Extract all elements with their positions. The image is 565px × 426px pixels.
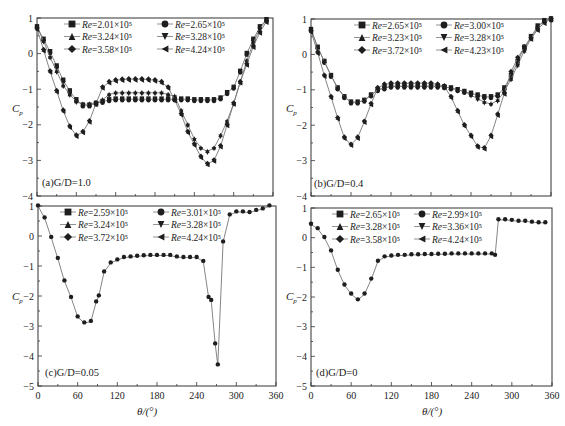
circle-marker-icon [419, 211, 426, 218]
legend-label: Re=3.58×10⁵ [81, 45, 132, 55]
data-point [155, 253, 159, 257]
data-point [186, 98, 190, 102]
plot-frame [37, 18, 273, 196]
legend-label: Re=3.28×10⁵ [174, 32, 225, 42]
legend-item: Re=4.24×10⁵ [157, 45, 225, 55]
data-point [107, 99, 111, 103]
series-line [311, 19, 551, 104]
data-point [403, 253, 407, 257]
data-point [315, 226, 319, 230]
x-tick-label: 0 [309, 390, 314, 401]
panel-label: (c)G/D=0.05 [45, 367, 99, 379]
legend-label: Re=3.36×10⁵ [431, 222, 482, 232]
circle-marker-icon [441, 22, 448, 29]
y-tick-label: −3 [296, 321, 307, 332]
data-point [153, 98, 157, 102]
legend-label: Re=3.28×10⁵ [349, 222, 400, 232]
x-tick-label: 240 [189, 390, 204, 401]
data-point [416, 252, 420, 256]
x-axis-ticks: 060120180240300360 [309, 382, 560, 401]
x-tick-label: 0 [36, 390, 41, 401]
data-point [536, 220, 540, 224]
x-tick-label: 240 [464, 390, 479, 401]
data-point [148, 253, 152, 257]
y-tick-label: −1 [23, 261, 34, 272]
data-point [209, 298, 213, 302]
x-axis-ticks: 060120180240300360 [36, 382, 284, 401]
data-point [456, 251, 460, 255]
data-point [483, 251, 487, 255]
y-tick-label: 1 [302, 14, 307, 25]
data-point [396, 253, 400, 257]
legend-item: Re=2.59×10⁵ [60, 208, 128, 218]
panel-label: (d)G/D=0 [316, 367, 358, 379]
plot-frame [38, 206, 276, 386]
figure-canvas: 10−1−2−3−4 Cp (a)G/D=1.0 Re=2.01×10⁵Re=2… [0, 0, 565, 426]
data-point [122, 255, 126, 259]
data-point [199, 99, 203, 103]
legend: Re=2.01×10⁵Re=2.65×10⁵Re=3.24×10⁵Re=3.28… [64, 20, 225, 55]
data-point [322, 235, 326, 239]
data-point [238, 70, 242, 74]
data-point [128, 254, 132, 258]
square-marker-icon [359, 22, 366, 29]
legend-label: Re=4.24×10⁵ [174, 45, 225, 55]
legend-item: Re=2.99×10⁵ [414, 210, 482, 220]
legend-item: Re=2.65×10⁵ [157, 20, 225, 30]
x-tick-label: 60 [73, 390, 83, 401]
y-tick-label: −2 [22, 119, 33, 130]
data-point [489, 96, 493, 100]
y-tick-label: −5 [23, 381, 34, 392]
x-axis-ticks [311, 192, 551, 196]
legend-item: Re=3.24×10⁵ [60, 220, 128, 230]
data-point [201, 259, 205, 263]
legend-item: Re=3.58×10⁵ [64, 45, 132, 55]
data-point [213, 341, 217, 345]
legend-item: Re=3.24×10⁵ [64, 32, 132, 42]
x-tick-label: 300 [504, 390, 519, 401]
y-tick-label: 0 [29, 231, 34, 242]
data-point [530, 219, 534, 223]
diamond-marker-icon [68, 45, 76, 53]
data-point [543, 220, 547, 224]
y-tick-label: 1 [29, 201, 34, 212]
data-point [159, 98, 163, 102]
data-point [493, 253, 497, 257]
circle-marker-icon [158, 209, 165, 216]
legend: Re=2.59×10⁵Re=3.01×10⁵Re=3.24×10⁵Re=3.28… [60, 208, 221, 243]
data-point [362, 291, 366, 295]
x-tick-label: 120 [384, 390, 399, 401]
y-tick-label: −5 [296, 381, 307, 392]
data-point [146, 98, 150, 102]
legend-item: Re=2.01×10⁵ [64, 20, 132, 30]
data-series [308, 16, 553, 152]
legend-item: Re=3.23×10⁵ [354, 33, 422, 43]
y-tick-label: 1 [28, 13, 33, 24]
y-tick-label: 1 [302, 203, 307, 214]
data-point [369, 276, 373, 280]
data-point [97, 293, 101, 297]
legend-label: Re=3.24×10⁵ [77, 220, 128, 230]
y-tick-label: −2 [296, 120, 307, 131]
data-point [192, 99, 196, 103]
data-point [218, 97, 222, 101]
triangle-left-marker-icon [419, 236, 426, 243]
data-point [228, 212, 232, 216]
legend-item: Re=4.23×10⁵ [436, 46, 504, 56]
diamond-marker-icon [358, 46, 366, 54]
data-point [516, 219, 520, 223]
data-point [342, 282, 346, 286]
legend-label: Re=4.23×10⁵ [453, 46, 504, 56]
diamond-marker-icon [64, 233, 72, 241]
y-tick-label: −3 [296, 155, 307, 166]
y-tick-label: 0 [302, 232, 307, 243]
y-tick-label: −3 [22, 155, 33, 166]
data-point [113, 98, 117, 102]
legend-label: Re=3.72×10⁵ [77, 233, 128, 243]
y-axis-ticks: 10−1−2−3−4 [22, 13, 41, 202]
legend-label: Re=4.24×10⁵ [170, 233, 221, 243]
data-point [241, 209, 245, 213]
y-tick-label: 0 [302, 49, 307, 60]
x-tick-label: 180 [150, 390, 165, 401]
legend-label: Re=3.72×10⁵ [371, 46, 422, 56]
